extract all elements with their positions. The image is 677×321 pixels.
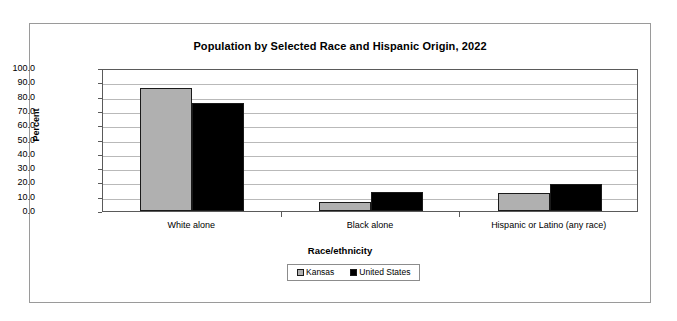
y-axis-tick-label: 20.0 — [0, 178, 35, 187]
legend-item[interactable]: Kansas — [297, 268, 334, 277]
bar — [371, 192, 423, 211]
bar — [192, 103, 244, 211]
bar — [319, 202, 371, 211]
y-axis-tick-label: 50.0 — [0, 136, 35, 145]
gridline — [103, 84, 637, 85]
x-axis-tick-mark — [281, 212, 282, 217]
y-axis-tick-label: 100.0 — [0, 64, 35, 73]
x-axis-category-label: Hispanic or Latino (any race) — [491, 220, 606, 230]
y-axis-tick-label: 10.0 — [0, 193, 35, 202]
legend-item[interactable]: United States — [350, 268, 410, 277]
y-axis-tick-label: 60.0 — [0, 121, 35, 130]
y-axis-tick-label: 0.0 — [0, 207, 35, 216]
y-axis-tick-mark — [98, 212, 102, 213]
bar — [550, 184, 602, 211]
y-axis-tick-label: 90.0 — [0, 78, 35, 87]
x-axis-category-label: White alone — [168, 220, 216, 230]
chart-title: Population by Selected Race and Hispanic… — [30, 40, 650, 52]
y-axis-tick-label: 70.0 — [0, 107, 35, 116]
bar — [140, 88, 192, 211]
y-axis-tick-label: 40.0 — [0, 150, 35, 159]
legend-label: Kansas — [306, 268, 334, 277]
x-axis-tick-mark — [459, 212, 460, 217]
plot-area — [102, 69, 638, 212]
legend-color-swatch — [297, 269, 304, 276]
y-axis-tick-label: 30.0 — [0, 164, 35, 173]
x-axis-category-label: Black alone — [347, 220, 394, 230]
bar — [498, 193, 550, 211]
chart-legend: KansasUnited States — [287, 264, 420, 281]
legend-label: United States — [359, 268, 410, 277]
legend-color-swatch — [350, 269, 357, 276]
chart-container: Population by Selected Race and Hispanic… — [29, 23, 651, 303]
y-axis-tick-label: 80.0 — [0, 93, 35, 102]
x-axis-title: Race/ethnicity — [30, 245, 650, 256]
